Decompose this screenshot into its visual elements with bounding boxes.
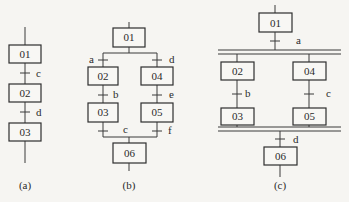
step-label: 01 bbox=[20, 48, 31, 60]
panel-caption: (c) bbox=[274, 179, 287, 192]
transition-label: a bbox=[296, 34, 301, 46]
transition-label: d bbox=[293, 133, 299, 145]
step-label: 04 bbox=[304, 65, 316, 77]
step-label: 03 bbox=[98, 106, 110, 118]
transition-label: e bbox=[169, 88, 174, 100]
step-label: 02 bbox=[20, 87, 31, 99]
step-label: 05 bbox=[304, 110, 316, 122]
transition-label: d bbox=[169, 53, 175, 65]
step-label: 06 bbox=[124, 147, 136, 159]
transition-label: d bbox=[36, 106, 42, 118]
step-label: 06 bbox=[275, 150, 287, 162]
panel-caption: (b) bbox=[123, 179, 136, 192]
transition-label: a bbox=[89, 53, 94, 65]
step-label: 02 bbox=[232, 65, 243, 77]
sfc-diagram-figure: 01 c 02 d 03 (a) 01 a 02 b 03 c d 04 bbox=[0, 0, 349, 202]
panel-c-parallel-branch: 01 a 02 b 03 04 c 05 d 06 (c) bbox=[218, 5, 341, 192]
transition-label: b bbox=[113, 88, 119, 100]
step-label: 01 bbox=[124, 31, 135, 43]
step-label: 02 bbox=[98, 70, 109, 82]
step-label: 01 bbox=[270, 17, 281, 29]
step-label: 05 bbox=[152, 106, 164, 118]
step-label: 03 bbox=[232, 110, 244, 122]
transition-label: c bbox=[123, 123, 128, 135]
panel-a-single-sequence: 01 c 02 d 03 (a) bbox=[9, 27, 42, 192]
step-label: 04 bbox=[152, 70, 164, 82]
transition-label: b bbox=[245, 87, 251, 99]
step-label: 03 bbox=[20, 126, 32, 138]
panel-caption: (a) bbox=[19, 179, 32, 192]
transition-label: c bbox=[36, 67, 41, 79]
transition-label: f bbox=[168, 124, 172, 136]
transition-label: c bbox=[326, 87, 331, 99]
panel-b-selective-branch: 01 a 02 b 03 c d 04 e 05 f 06 (b) bbox=[88, 22, 175, 192]
sfc-diagrams-svg: 01 c 02 d 03 (a) 01 a 02 b 03 c d 04 bbox=[0, 0, 349, 202]
